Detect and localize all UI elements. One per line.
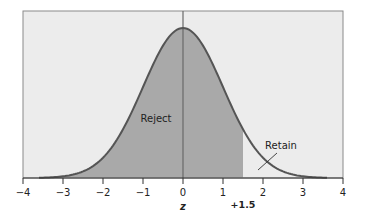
critical-value-label: +1.5 xyxy=(231,199,256,210)
normal-distribution-chart: −4−3−2−101234 Reject Retain +1.5 z xyxy=(0,0,366,221)
x-tick-label: 3 xyxy=(300,187,306,198)
retain-label: Retain xyxy=(265,140,297,151)
x-axis-title: z xyxy=(179,201,186,212)
x-tick-label: 1 xyxy=(220,187,226,198)
x-tick-label: −1 xyxy=(136,187,151,198)
x-tick-label: −4 xyxy=(16,187,31,198)
x-axis-ticks: −4−3−2−101234 xyxy=(16,178,347,198)
x-tick-label: 4 xyxy=(340,187,346,198)
x-tick-label: 0 xyxy=(180,187,186,198)
x-tick-label: −2 xyxy=(96,187,111,198)
x-tick-label: −3 xyxy=(56,187,71,198)
reject-label: Reject xyxy=(140,113,171,124)
x-tick-label: 2 xyxy=(260,187,266,198)
